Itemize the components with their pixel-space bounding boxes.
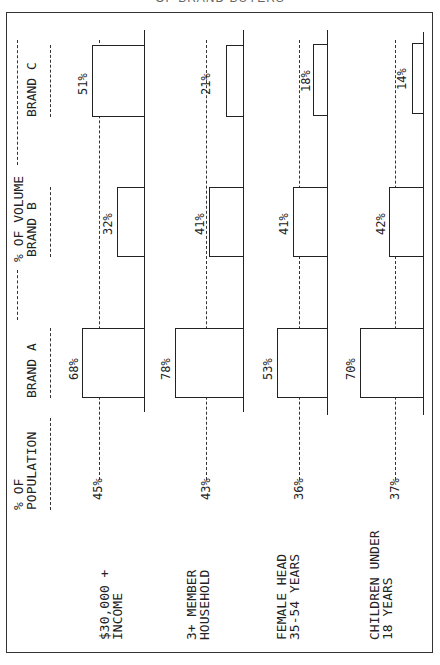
bar-value-brand-b: 41%: [194, 213, 207, 235]
bar-baseline: [144, 30, 145, 412]
header-brand-c-underline: [50, 45, 51, 117]
bar-brand-b: [293, 187, 327, 257]
population-value: 37%: [389, 478, 402, 500]
volume-group-dash-right: [17, 40, 18, 165]
bar-value-brand-a: 68%: [68, 358, 81, 380]
bar-brand-a: [82, 328, 144, 398]
header-population: % OF POPULATION: [12, 432, 38, 510]
bar-brand-c: [226, 45, 243, 117]
row-label: $30,000 + INCOME: [98, 570, 124, 640]
header-brand-c: BRAND C: [25, 62, 38, 117]
header-brand-b-underline: [50, 187, 51, 257]
bar-brand-a: [175, 328, 243, 398]
bar-value-brand-c: 18%: [300, 70, 313, 92]
bar-brand-a: [360, 328, 423, 398]
bar-value-brand-b: 42%: [375, 213, 388, 235]
population-reference-line: [206, 40, 207, 480]
population-value: 45%: [92, 478, 105, 500]
header-brand-a: BRAND A: [25, 343, 38, 398]
population-value: 36%: [293, 478, 306, 500]
bar-value-brand-a: 78%: [160, 358, 173, 380]
chart-title: OF BRAND BUYERS: [150, 0, 290, 5]
bar-brand-c: [92, 45, 144, 117]
population-reference-line: [299, 40, 300, 480]
bar-baseline: [327, 30, 328, 415]
bar-value-brand-b: 32%: [102, 213, 115, 235]
header-brand-b: BRAND B: [25, 202, 38, 257]
bar-brand-b: [117, 187, 144, 257]
bar-brand-a: [277, 328, 327, 398]
bar-brand-c: [412, 43, 423, 114]
population-value: 43%: [200, 478, 213, 500]
bar-brand-c: [313, 44, 327, 116]
bar-value-brand-a: 70%: [345, 358, 358, 380]
bar-brand-b: [209, 187, 243, 257]
bar-baseline: [423, 32, 424, 415]
row-label: FEMALE HEAD 35-54 YEARS: [275, 554, 301, 640]
volume-group-dash-left: [17, 270, 18, 320]
bar-brand-b: [389, 187, 423, 257]
bar-value-brand-c: 21%: [200, 73, 213, 95]
bar-value-brand-c: 51%: [77, 73, 90, 95]
population-reference-line: [395, 40, 396, 480]
bar-value-brand-b: 41%: [278, 213, 291, 235]
header-brand-a-underline: [50, 328, 51, 398]
row-label: CHILDREN UNDER 18 YEARS: [368, 530, 394, 640]
row-label: 3+ MEMBER HOUSEHOLD: [185, 570, 211, 640]
header-population-underline: [50, 418, 51, 510]
bar-value-brand-c: 14%: [396, 68, 409, 90]
bar-baseline: [243, 30, 244, 412]
bar-value-brand-a: 53%: [262, 358, 275, 380]
